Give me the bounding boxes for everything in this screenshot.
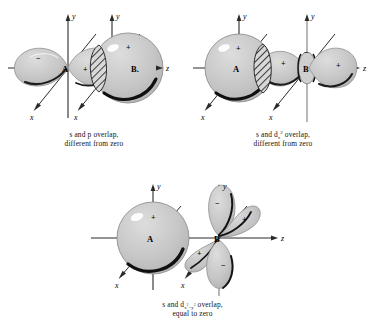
- sign-positive-d-left: +: [281, 59, 286, 68]
- x-axis-arrow-a: [205, 103, 212, 111]
- atom-label-a: A: [233, 64, 240, 74]
- axis-label-y-a: y: [156, 182, 161, 191]
- axis-label-x-a: x: [114, 281, 119, 290]
- sign-negative-torus: −: [304, 48, 309, 57]
- sign-negative-lower-right: −: [221, 261, 226, 270]
- sign-positive-s-a: +: [151, 213, 156, 222]
- y-axis-arrow-a: [66, 14, 71, 21]
- axis-label-y-b: y: [222, 182, 227, 191]
- sign-negative-upper-left: −: [215, 199, 220, 208]
- caption-line-2: equal to zero: [85, 309, 300, 318]
- sign-positive-s-a: +: [236, 44, 241, 53]
- caption-text-pre: s and d: [162, 300, 184, 309]
- d-z2-right-lobe: [309, 48, 357, 88]
- axis-label-y-a: y: [242, 12, 247, 21]
- sign-positive-p-right: +: [83, 65, 88, 74]
- sign-positive-lower-left: +: [197, 249, 202, 258]
- atom-label-b: B: [214, 234, 220, 244]
- axis-label-y-b: y: [310, 12, 315, 21]
- sign-positive-upper-right: +: [242, 215, 247, 224]
- axis-label-y-a: y: [71, 12, 76, 21]
- caption-text-post: overlap,: [196, 300, 223, 309]
- x-axis-arrow-b: [78, 103, 85, 111]
- y-axis-arrow-b: [110, 14, 115, 21]
- x-axis-arrow-a: [34, 103, 41, 111]
- x-axis-arrow-b: [273, 103, 280, 111]
- atom-label-a: A: [62, 64, 69, 74]
- caption-text-post: overlap,: [283, 130, 310, 139]
- p-orbital-negative-lobe: [14, 48, 68, 86]
- sign-positive-d-right: +: [336, 61, 341, 70]
- atom-label-a: A: [147, 234, 154, 244]
- diagram-s-dz2-overlap: y y z x x A B + + − +: [189, 0, 377, 132]
- sign-positive-s-b: +: [126, 43, 131, 52]
- atom-label-b: B: [303, 64, 309, 74]
- axis-label-x-a: x: [200, 113, 205, 122]
- axis-label-z: z: [362, 64, 367, 73]
- caption-s-dz2-overlap: s and dz2 overlap, different from zero: [189, 130, 377, 148]
- caption-line-1: s and p overlap,: [0, 130, 188, 139]
- caption-s-p-overlap: s and p overlap, different from zero: [0, 130, 188, 148]
- axis-label-y-b: y: [115, 12, 120, 21]
- panel-s-dz2-overlap: y y z x x A B + + − + s and dz2 overlap,…: [189, 0, 377, 170]
- caption-line-2: different from zero: [0, 139, 188, 148]
- caption-line-2: different from zero: [189, 139, 377, 148]
- panel-s-p-overlap: y y z x x A B. − + + s and p overlap, di…: [0, 0, 188, 170]
- caption-line-1: s and dx2−y2 overlap,: [85, 300, 300, 309]
- axis-label-x-b: x: [180, 281, 185, 290]
- sign-negative-p-left: −: [36, 54, 41, 63]
- y-axis-arrow-a: [237, 14, 242, 21]
- axis-label-x-a: x: [29, 113, 34, 122]
- axis-label-x-b: x: [268, 113, 273, 122]
- panel-s-dx2y2-overlap: y y z x x A B + − + + − s and dx2−y2 ove…: [85, 172, 300, 335]
- caption-line-1: s and dz2 overlap,: [189, 130, 377, 139]
- diagram-s-dx2y2-overlap: y y z x x A B + − + + −: [85, 172, 300, 307]
- caption-s-dx2y2-overlap: s and dx2−y2 overlap, equal to zero: [85, 300, 300, 318]
- diagram-s-p-overlap: y y z x x A B. − + +: [0, 0, 188, 132]
- y-axis-arrow-b: [305, 14, 310, 21]
- axis-label-z: z: [165, 64, 170, 73]
- axis-label-x-b: x: [73, 113, 78, 122]
- axis-label-z: z: [280, 234, 285, 243]
- z-axis-arrow: [271, 236, 278, 241]
- atom-label-b: B.: [131, 64, 139, 74]
- y-axis-arrow-a: [151, 184, 156, 191]
- caption-text-pre: s and d: [256, 130, 278, 139]
